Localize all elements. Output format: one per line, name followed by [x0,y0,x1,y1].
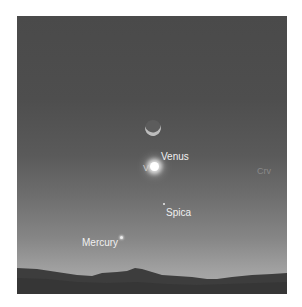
mercury-point [120,236,123,239]
spica-point [163,203,165,205]
crescent-moon-icon [142,117,164,139]
mercury-label: Mercury [82,238,118,248]
venus-secondary-label: V [143,164,149,173]
venus-label: Venus [161,152,189,162]
venus-point [150,162,159,171]
sky-photo: V Venus Crv Spica Mercury [17,16,287,294]
spica-label: Spica [166,208,191,218]
mountain-horizon [17,264,287,294]
crv-label: Crv [257,167,271,176]
